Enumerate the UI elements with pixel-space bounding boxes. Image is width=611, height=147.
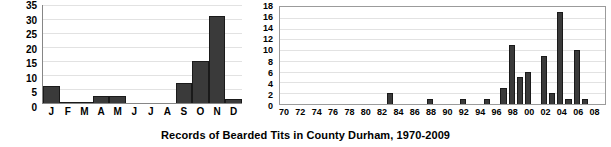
x-tick: 90 [442,107,452,121]
x-tick: J [126,106,143,122]
x-tick: 94 [475,107,485,121]
x-tick: M [109,106,126,122]
bar-slot [434,7,442,104]
bar [427,99,433,104]
x-tick: 06 [573,107,583,121]
bar-slot [540,7,548,104]
bar-slot [142,5,159,103]
x-tick: A [93,106,110,122]
bar-slot [126,5,143,103]
bar [517,77,523,104]
bar-slot [369,7,377,104]
y-tick: 10 [263,45,273,55]
y-tick: 35 [26,0,37,11]
x-tick: 80 [361,107,371,121]
chart-yearly-records: 0 2 4 6 8 10 12 14 16 18 7072747 [253,0,611,130]
plot-area-yearly [279,6,606,105]
bar [460,99,466,104]
chart-monthly-records: 0 5 10 15 20 25 30 35 JFMAMJJASOND [0,0,250,125]
bar-slot [475,7,483,104]
bar-slot [353,7,361,104]
x-tick: 96 [491,107,501,121]
bars-yearly [280,7,605,104]
bar [176,83,193,103]
bar-slot [483,7,491,104]
bar-slot [225,5,242,103]
y-tick: 25 [26,29,37,40]
bar-slot [556,7,564,104]
bar-slot [589,7,597,104]
x-tick: 74 [312,107,322,121]
x-tick: 92 [459,107,469,121]
bar-slot [280,7,288,104]
bar-slot [337,7,345,104]
y-tick: 16 [263,12,273,22]
x-axis-monthly: JFMAMJJASOND [43,106,242,122]
bar-slot [209,5,226,103]
figure-caption: Records of Bearded Tits in County Durham… [0,129,611,141]
bar-slot [573,7,581,104]
bar [549,93,555,104]
bar-slot [345,7,353,104]
bar-slot [378,7,386,104]
x-tick: D [225,106,242,122]
bar-slot [402,7,410,104]
bar-slot [93,5,110,103]
bar [509,45,515,104]
x-tick: J [142,106,159,122]
bar-slot [451,7,459,104]
x-tick: A [159,106,176,122]
plot-area-monthly [42,5,242,104]
y-tick: 20 [26,43,37,54]
bar-slot [516,7,524,104]
bar-slot [443,7,451,104]
bar-slot [192,5,209,103]
bar-slot [508,7,516,104]
bar [209,16,226,103]
x-tick: 98 [508,107,518,121]
y-axis-monthly: 0 5 10 15 20 25 30 35 [0,5,37,107]
x-axis-yearly: 7072747678808284868890929496980002040608 [279,107,606,121]
y-tick: 12 [263,34,273,44]
bar-slot [418,7,426,104]
x-tick: 86 [410,107,420,121]
bar [76,102,93,103]
bar-slot [499,7,507,104]
y-tick: 10 [26,72,37,83]
y-tick: 14 [263,23,273,33]
bar-slot [60,5,77,103]
bar-slot [524,7,532,104]
bar [60,102,77,103]
x-tick: 82 [377,107,387,121]
bar-slot [288,7,296,104]
y-tick: 0 [268,101,273,111]
bar-slot [313,7,321,104]
bar-slot [532,7,540,104]
x-tick: 70 [279,107,289,121]
bar-slot [491,7,499,104]
x-tick: 04 [557,107,567,121]
bar [500,88,506,104]
bar [109,96,126,103]
y-tick: 15 [26,58,37,69]
x-tick: 02 [541,107,551,121]
bar [574,50,580,104]
bar [225,99,242,103]
y-tick: 5 [31,87,37,98]
bar [387,93,393,104]
x-tick: 00 [524,107,534,121]
bar-slot [176,5,193,103]
x-tick: 88 [426,107,436,121]
bar-slot [329,7,337,104]
bars-monthly [43,5,242,103]
y-tick: 0 [31,102,37,113]
bar [192,61,209,103]
bar-slot [548,7,556,104]
x-tick: 08 [590,107,600,121]
x-tick [600,107,606,121]
x-tick: 84 [393,107,403,121]
bar-slot [304,7,312,104]
bar [565,99,571,104]
y-tick: 30 [26,14,37,25]
bar-slot [296,7,304,104]
